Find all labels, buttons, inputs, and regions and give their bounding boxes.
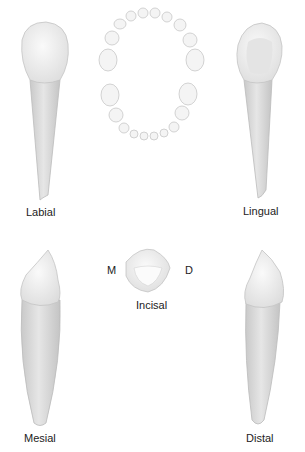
distal-tooth — [245, 250, 284, 424]
label-mesial-marker: M — [107, 264, 116, 276]
label-distal-marker: D — [185, 264, 193, 276]
label-lingual: Lingual — [243, 205, 278, 217]
lingual-tooth — [237, 23, 282, 198]
dental-diagram — [0, 0, 305, 452]
label-labial: Labial — [26, 206, 55, 218]
label-distal: Distal — [246, 432, 274, 444]
labial-tooth — [22, 22, 69, 200]
label-incisal: Incisal — [136, 299, 167, 311]
dental-arch-icon — [99, 8, 204, 140]
incisal-view — [126, 249, 170, 292]
mesial-tooth — [21, 250, 61, 426]
label-mesial: Mesial — [24, 432, 56, 444]
